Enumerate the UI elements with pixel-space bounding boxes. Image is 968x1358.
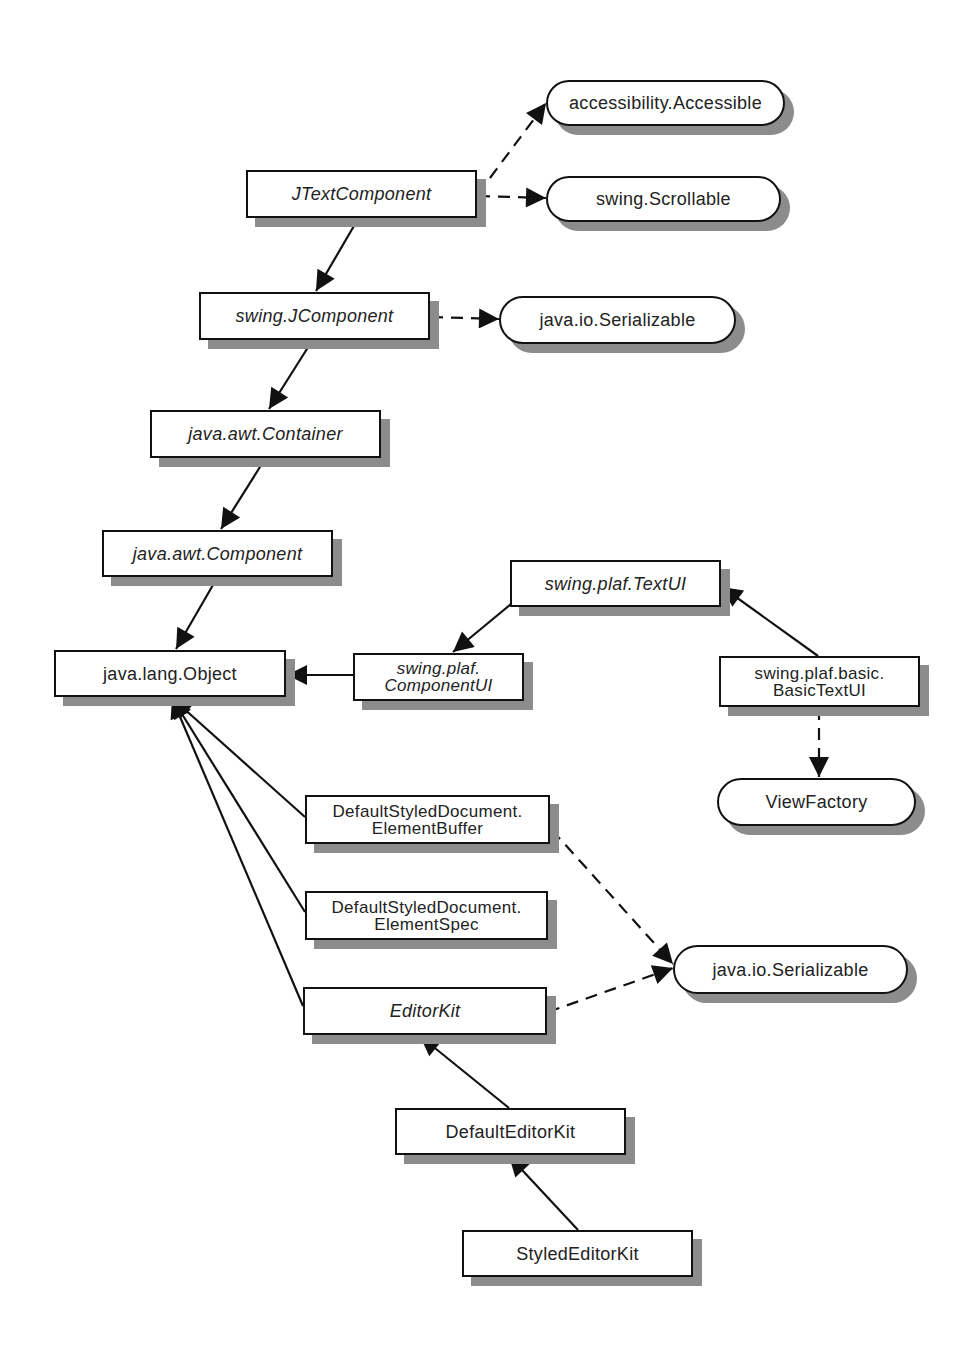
node-label: java.io.Serializable [712, 961, 868, 979]
edge-component-to-object [176, 578, 217, 649]
interface-viewfactory[interactable]: ViewFactory [717, 778, 916, 826]
interface-accessible[interactable]: accessibility.Accessible [546, 80, 785, 126]
class-jtextcomponent[interactable]: JTextComponent [246, 170, 477, 218]
node-label: swing.plaf.TextUI [545, 575, 687, 593]
class-elementbuffer[interactable]: DefaultStyledDocument. ElementBuffer [305, 795, 550, 844]
interface-serializable-top[interactable]: java.io.Serializable [499, 296, 736, 344]
node-label: JTextComponent [292, 185, 432, 203]
edge-container-to-component [221, 459, 265, 529]
class-editorkit[interactable]: EditorKit [303, 987, 547, 1035]
class-elementspec[interactable]: DefaultStyledDocument. ElementSpec [305, 891, 548, 940]
class-defaulteditorkit[interactable]: DefaultEditorKit [395, 1108, 626, 1155]
node-label: DefaultStyledDocument. ElementSpec [332, 899, 522, 933]
node-label: DefaultStyledDocument. ElementBuffer [333, 803, 523, 837]
edge-elementbuffer-to-object [172, 698, 305, 817]
edge-jcomponent-to-container [269, 341, 312, 409]
class-container[interactable]: java.awt.Container [150, 410, 381, 458]
node-label: java.awt.Component [133, 545, 303, 563]
node-label: java.awt.Container [188, 425, 342, 443]
edge-basictextui-to-textui [722, 587, 818, 656]
edge-jtextcomponent-to-scrollable [478, 196, 546, 198]
class-stylededitorkit[interactable]: StyledEditorKit [462, 1230, 693, 1277]
edge-editorkit-to-serializable2 [548, 968, 673, 1012]
node-label: swing.Scrollable [596, 190, 731, 208]
node-label: EditorKit [390, 1002, 461, 1020]
node-label: swing.JComponent [236, 307, 394, 325]
node-label: accessibility.Accessible [569, 94, 762, 112]
class-componentui[interactable]: swing.plaf. ComponentUI [353, 653, 524, 701]
node-label: java.lang.Object [103, 665, 237, 683]
node-label: ViewFactory [765, 793, 867, 811]
interface-scrollable[interactable]: swing.Scrollable [546, 176, 781, 222]
edge-stylededitorkit-to-defaulteditorkit [509, 1156, 578, 1230]
class-basictextui[interactable]: swing.plaf.basic. BasicTextUI [719, 656, 920, 707]
edge-jcomponent-to-serializable1 [431, 317, 499, 319]
class-jcomponent[interactable]: swing.JComponent [199, 292, 430, 340]
node-label: DefaultEditorKit [446, 1123, 576, 1141]
interface-serializable-bottom[interactable]: java.io.Serializable [673, 945, 908, 994]
edge-jtextcomponent-to-jcomponent [316, 219, 358, 291]
class-component[interactable]: java.awt.Component [102, 530, 333, 577]
edge-jtextcomponent-to-accessible [478, 103, 546, 194]
class-textui[interactable]: swing.plaf.TextUI [510, 560, 721, 607]
edge-elementbuffer-to-serializable2 [552, 830, 673, 964]
edge-defaulteditorkit-to-editorkit [420, 1036, 509, 1108]
node-label: swing.plaf. ComponentUI [384, 660, 492, 694]
edge-elementspec-to-object [172, 698, 305, 912]
node-label: StyledEditorKit [516, 1245, 639, 1263]
class-object[interactable]: java.lang.Object [54, 650, 286, 697]
node-label: java.io.Serializable [539, 311, 695, 329]
edge-editorkit-to-object [172, 698, 303, 1006]
node-label: swing.plaf.basic. BasicTextUI [755, 665, 885, 699]
